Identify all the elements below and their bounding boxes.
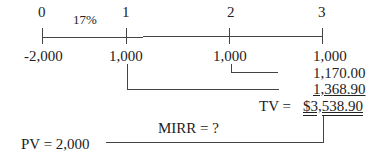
cash-flow-0: -2,000 bbox=[24, 49, 63, 64]
compound-line-1-horiz bbox=[127, 89, 279, 90]
fv-year-2: 1,170.00 bbox=[313, 66, 366, 81]
period-3-label: 3 bbox=[318, 5, 326, 20]
cash-flow-3: 1,000 bbox=[313, 49, 347, 64]
tv-label: TV = bbox=[259, 99, 291, 114]
pv-label: PV = 2,000 bbox=[21, 137, 90, 152]
fv-year-1: 1,368.90 bbox=[313, 82, 366, 97]
cash-flow-2: 1,000 bbox=[213, 49, 247, 64]
period-2-label: 2 bbox=[227, 5, 235, 20]
tick-2 bbox=[229, 28, 230, 44]
compound-line-1-vert bbox=[127, 64, 128, 89]
mirr-label: MIRR = ? bbox=[158, 121, 219, 136]
compound-line-2-vert bbox=[231, 64, 232, 72]
tick-0 bbox=[42, 28, 43, 44]
period-1-label: 1 bbox=[122, 5, 130, 20]
tv-value: $3,538.90 bbox=[303, 99, 363, 114]
tick-3 bbox=[322, 28, 323, 44]
timeline-axis-cont bbox=[143, 36, 323, 37]
period-0-label: 0 bbox=[38, 5, 46, 20]
pv-connector-horiz bbox=[106, 142, 324, 143]
cash-flow-1: 1,000 bbox=[109, 49, 143, 64]
tick-1 bbox=[126, 28, 127, 44]
timeline-axis bbox=[42, 37, 143, 38]
pv-connector-vert bbox=[323, 116, 324, 142]
discount-rate: 17% bbox=[73, 12, 97, 27]
compound-line-2-horiz bbox=[231, 72, 278, 73]
